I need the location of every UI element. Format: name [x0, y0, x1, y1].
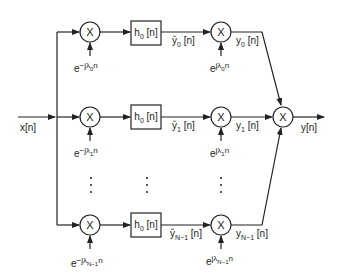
branchN-filter-label: h0 [n]	[131, 220, 161, 232]
branch0-filter-label: h0 [n]	[131, 28, 161, 40]
branchN-output-label: yN−1 [n]	[236, 229, 268, 241]
branchN-demod-symbol: X	[80, 220, 100, 231]
branch0-filtered-label: y̌0 [n]	[172, 36, 195, 48]
branch1-output-label: y1 [n]	[236, 121, 259, 133]
branch1-mod-exponential: ejλ1n	[210, 149, 229, 161]
branch1-filtered-label: y̌1 [n]	[172, 121, 195, 133]
branch1-filter-label: h0 [n]	[131, 112, 161, 124]
branchN-to-combiner-arrow	[231, 128, 281, 225]
filter-bank-diagram: X X X X X X X x[n] y[n] h0 [n] h0 [n] h0…	[0, 0, 340, 279]
branch1-mod-symbol: X	[211, 112, 231, 123]
input-label: x[n]	[20, 123, 36, 133]
branchN-mod-exponential: ejλN−1n	[206, 257, 233, 269]
combiner-symbol: X	[273, 112, 293, 123]
branch1-demod-symbol: X	[80, 112, 100, 123]
branchN-mod-symbol: X	[211, 220, 231, 231]
branch0-mod-symbol: X	[211, 27, 231, 38]
branch0-demod-symbol: X	[80, 27, 100, 38]
branch1-demod-exponential: e−jλ1n	[74, 149, 98, 161]
branch0-mod-exponential: ejλ0n	[210, 64, 229, 76]
branch0-output-label: y0 [n]	[236, 36, 259, 48]
output-label: y[n]	[301, 123, 317, 133]
branchN-demod-exponential: e−jλN−1n	[71, 259, 103, 271]
branchN-filtered-label: y̌N−1 [n]	[170, 229, 202, 241]
branch0-demod-exponential: e−jλ0n	[74, 64, 98, 76]
